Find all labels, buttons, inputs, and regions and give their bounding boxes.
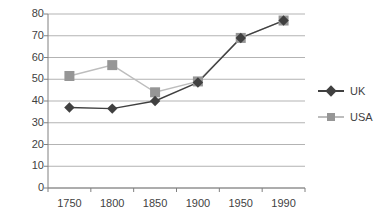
- legend-item-usa[interactable]: USA: [318, 104, 388, 130]
- legend-item-uk[interactable]: UK: [318, 78, 388, 104]
- legend-label-usa: USA: [344, 112, 373, 123]
- x-axis-tick-label: 1800: [90, 198, 134, 209]
- x-axis-tick-label: 1750: [47, 198, 91, 209]
- square-marker-icon: [327, 113, 335, 121]
- x-axis-tick-label: 1950: [219, 198, 263, 209]
- legend-swatch-uk: [318, 85, 344, 97]
- x-axis-tick-label: 1900: [176, 198, 220, 209]
- legend-label-uk: UK: [344, 86, 365, 97]
- line-chart: 01020304050607080 1750180018501900195019…: [0, 0, 392, 220]
- x-axis-tick-label: 1990: [262, 198, 306, 209]
- legend-swatch-usa: [318, 111, 344, 123]
- x-axis-tick-label: 1850: [133, 198, 177, 209]
- chart-legend: UK USA: [318, 78, 388, 130]
- diamond-marker-icon: [325, 85, 336, 96]
